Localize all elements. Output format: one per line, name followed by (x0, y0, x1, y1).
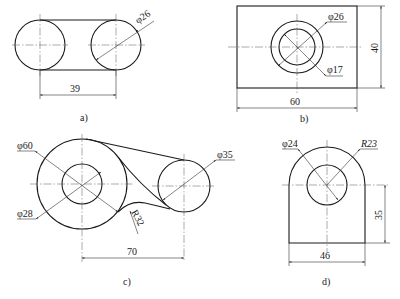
caption-d: d) (322, 276, 330, 288)
technical-drawings: 39 φ26 a) φ26 φ17 40 60 b) (0, 0, 400, 299)
dimension-phi26: φ26 (328, 11, 344, 22)
dimension-60: 60 (290, 96, 300, 107)
leader-phi35 (163, 160, 216, 200)
dimension-phi60: φ60 (17, 140, 33, 151)
leader-phi24 (298, 149, 338, 200)
caption-c: c) (123, 276, 131, 288)
figure-b: φ26 φ17 40 60 b) (228, 6, 385, 125)
dimension-R23: R23 (360, 138, 377, 149)
dimension-40: 40 (369, 43, 380, 53)
dimension-phi17: φ17 (327, 64, 343, 75)
dimension-phi26: φ26 (133, 8, 152, 26)
figure-c: φ60 φ28 φ35 R32 70 c) (17, 134, 235, 288)
dimension-35: 35 (373, 210, 384, 220)
dimension-70: 70 (127, 246, 137, 257)
upper-tangent-line (86, 139, 184, 160)
leader-line (96, 21, 154, 60)
caption-a: a) (80, 112, 88, 124)
dimension-phi35: φ35 (217, 149, 233, 160)
leader-R23 (327, 149, 360, 185)
dimension-phi28: φ28 (17, 208, 33, 219)
caption-b: b) (300, 113, 308, 125)
leader-phi28 (36, 172, 101, 219)
figure-a: 39 φ26 a) (12, 8, 154, 124)
dimension-46: 46 (320, 250, 330, 261)
dimension-phi24: φ24 (282, 138, 298, 149)
fillet-arc-R32 (118, 202, 170, 212)
figure-d: φ24 R23 35 46 d) (282, 138, 390, 288)
dimension-39: 39 (70, 83, 80, 94)
dimension-R32: R32 (129, 208, 147, 228)
